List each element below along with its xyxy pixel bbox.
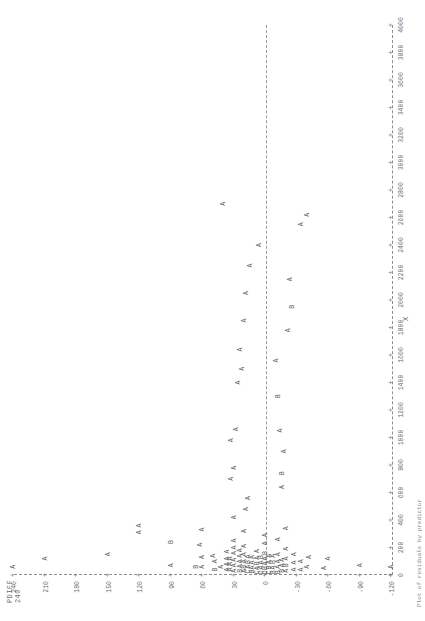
data-point: A [292, 552, 299, 556]
data-point: A [284, 569, 291, 573]
x-tick-mark: + [389, 106, 396, 110]
x-tick-label: 400 [398, 514, 405, 526]
x-tick-label: 2600 [398, 210, 405, 226]
y-tick-label: 120 [137, 581, 144, 615]
y-tick-label: 150 [105, 581, 112, 615]
x-tick-label: 1000 [398, 430, 405, 446]
y-tick-mark: + [326, 573, 333, 577]
data-point: A [248, 264, 255, 268]
y-tick-label: 240 [11, 581, 18, 615]
data-point: A [357, 563, 364, 567]
x-tick-label: 3200 [398, 127, 405, 143]
x-tick-mark: + [389, 326, 396, 330]
data-point: B [280, 471, 287, 475]
x-tick-mark: + [389, 381, 396, 385]
y-tick-mark: + [169, 573, 176, 577]
data-point: A [105, 552, 112, 556]
x-tick-label: 0 [398, 573, 405, 577]
y-tick-label: 60 [200, 581, 207, 615]
y-tick-label: -30 [294, 581, 301, 615]
x-tick-label: 1600 [398, 347, 405, 363]
data-point: A [284, 547, 291, 551]
data-point: A [42, 557, 49, 561]
x-tick-mark: + [389, 51, 396, 55]
data-point: A [263, 541, 270, 545]
x-tick-mark: + [389, 23, 396, 27]
x-tick-label: 1800 [398, 320, 405, 336]
data-point: A [242, 319, 249, 323]
x-tick-mark: + [389, 216, 396, 220]
x-tick-mark: + [389, 243, 396, 247]
data-point: A [307, 555, 314, 559]
data-point: A [221, 202, 228, 206]
data-point: A [284, 526, 291, 530]
data-point: A [298, 222, 305, 226]
data-point: A [286, 328, 293, 332]
x-tick-mark: + [389, 271, 396, 275]
data-point: A [256, 243, 263, 247]
y-tick-label: -120 [389, 581, 396, 615]
y-tick-mark: + [200, 573, 207, 577]
x-tick-mark: + [389, 436, 396, 440]
rotated-figure-container: PDIFF240 X Plot of residuals by predicto… [0, 0, 425, 621]
data-point: A [288, 277, 295, 281]
x-tick-mark: + [389, 353, 396, 357]
data-point: A [284, 557, 291, 561]
x-tick-label: 3600 [398, 72, 405, 88]
x-tick-mark: + [389, 408, 396, 412]
y-tick-mark: + [11, 573, 18, 577]
y-tick-mark: + [232, 573, 239, 577]
data-point: B [290, 305, 297, 309]
x-tick-label: 3400 [398, 100, 405, 116]
data-point: A [277, 429, 284, 433]
figure-caption: Plot of residuals by predictor [416, 499, 423, 607]
figure-page: PDIFF240 X Plot of residuals by predicto… [0, 0, 425, 621]
data-point: A [212, 559, 219, 563]
data-point: A [275, 537, 282, 541]
data-point: A [242, 529, 249, 533]
data-point: A [305, 565, 312, 569]
data-point: A [282, 449, 289, 453]
data-point: A [254, 549, 261, 553]
y-tick-mark: + [43, 573, 50, 577]
y-tick-label: -60 [326, 581, 333, 615]
y-tick-mark: + [137, 573, 144, 577]
data-point: B [275, 394, 282, 398]
y-tick-label: 30 [231, 581, 238, 615]
y-tick-label: -90 [357, 581, 364, 615]
y-tick-mark: + [295, 573, 302, 577]
data-point: A [231, 539, 238, 543]
data-point: A [389, 565, 396, 569]
data-point: A [11, 565, 18, 569]
data-point: A [137, 530, 144, 534]
data-point: A [275, 552, 282, 556]
data-point: A [326, 557, 333, 561]
y-tick-label: 210 [42, 581, 49, 615]
x-tick-mark: + [389, 78, 396, 82]
y-tick-label: 180 [74, 581, 81, 615]
x-tick-label: 200 [398, 542, 405, 554]
x-tick-label: 600 [398, 487, 405, 499]
x-tick-mark: + [389, 546, 396, 550]
data-point: A [242, 544, 249, 548]
data-point: B [168, 540, 175, 544]
y-tick-label: 90 [168, 581, 175, 615]
data-point: A [244, 291, 251, 295]
data-point: A [229, 477, 236, 481]
data-point: A [238, 348, 245, 352]
data-point: A [198, 543, 205, 547]
data-point: A [231, 515, 238, 519]
data-point: A [298, 559, 305, 563]
y-tick-mark: + [74, 573, 81, 577]
data-point: A [246, 496, 253, 500]
data-point: A [137, 524, 144, 528]
y-tick-label: 0 [263, 581, 270, 615]
data-point: A [168, 563, 175, 567]
y-tick-mark: + [106, 573, 113, 577]
data-point: A [210, 554, 217, 558]
x-tick-mark: + [389, 491, 396, 495]
x-tick-mark: + [389, 518, 396, 522]
x-tick-label: 2200 [398, 265, 405, 281]
y-tick-mark: + [358, 573, 365, 577]
x-tick-label: 800 [398, 459, 405, 471]
